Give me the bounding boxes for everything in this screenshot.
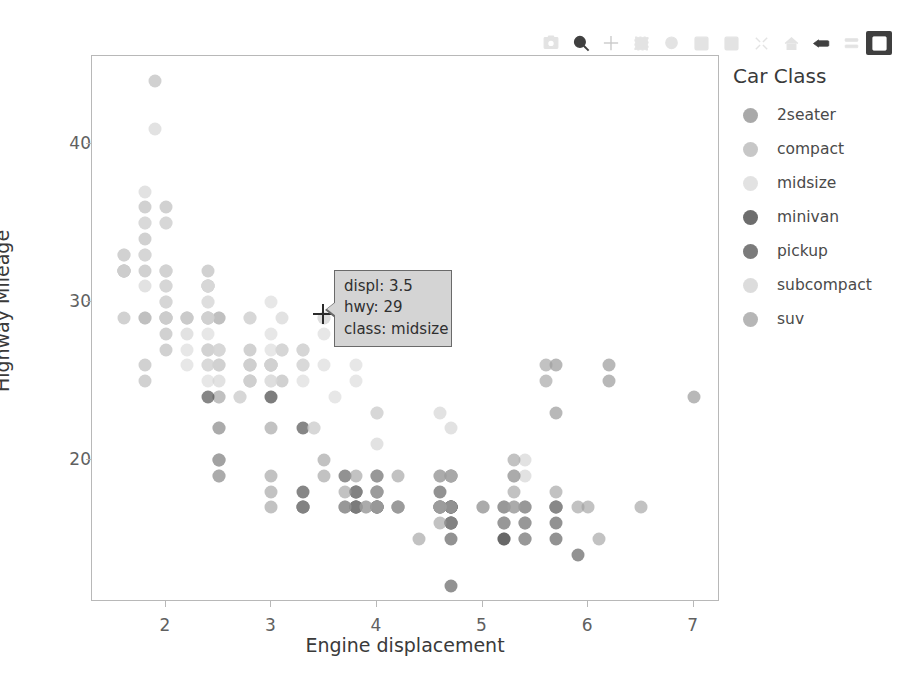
scatter-point[interactable] — [497, 501, 510, 514]
scatter-point[interactable] — [202, 390, 215, 403]
scatter-point[interactable] — [202, 311, 215, 324]
scatter-point[interactable] — [138, 280, 151, 293]
scatter-point[interactable] — [244, 343, 257, 356]
scatter-point[interactable] — [159, 264, 172, 277]
scatter-point[interactable] — [138, 264, 151, 277]
scatter-point[interactable] — [265, 485, 278, 498]
autoscale-icon[interactable] — [746, 29, 776, 57]
scatter-point[interactable] — [159, 280, 172, 293]
scatter-point[interactable] — [349, 469, 362, 482]
scatter-point[interactable] — [508, 453, 521, 466]
scatter-point[interactable] — [117, 311, 130, 324]
scatter-point[interactable] — [202, 296, 215, 309]
lasso-select-icon[interactable] — [656, 29, 686, 57]
scatter-point[interactable] — [370, 485, 383, 498]
scatter-point[interactable] — [571, 548, 584, 561]
scatter-point[interactable] — [202, 280, 215, 293]
scatter-point[interactable] — [138, 233, 151, 246]
scatter-point[interactable] — [265, 375, 278, 388]
scatter-point[interactable] — [265, 359, 278, 372]
scatter-point[interactable] — [149, 122, 162, 135]
scatter-point[interactable] — [297, 359, 310, 372]
scatter-point[interactable] — [307, 422, 320, 435]
box-select-icon[interactable] — [626, 29, 656, 57]
zoom-magnifier-icon[interactable] — [566, 29, 596, 57]
scatter-point[interactable] — [138, 201, 151, 214]
scatter-point[interactable] — [212, 375, 225, 388]
scatter-point[interactable] — [497, 517, 510, 530]
scatter-point[interactable] — [370, 469, 383, 482]
scatter-point[interactable] — [297, 375, 310, 388]
scatter-point[interactable] — [603, 375, 616, 388]
legend-item-subcompact[interactable]: subcompact — [733, 268, 908, 302]
legend-item-midsize[interactable]: midsize — [733, 166, 908, 200]
legend[interactable]: Car Class 2seatercompactmidsizeminivanpi… — [733, 64, 908, 336]
scatter-point[interactable] — [571, 501, 584, 514]
scatter-point[interactable] — [318, 359, 331, 372]
scatter-point[interactable] — [539, 375, 552, 388]
scatter-point[interactable] — [180, 311, 193, 324]
scatter-point[interactable] — [370, 438, 383, 451]
legend-item-2seater[interactable]: 2seater — [733, 98, 908, 132]
zoom-in-plus-icon[interactable] — [686, 29, 716, 57]
scatter-point[interactable] — [138, 248, 151, 261]
scatter-point[interactable] — [159, 343, 172, 356]
zoom-out-minus-icon[interactable] — [716, 29, 746, 57]
scatter-point[interactable] — [159, 217, 172, 230]
scatter-point[interactable] — [265, 422, 278, 435]
scatter-point[interactable] — [212, 422, 225, 435]
legend-item-suv[interactable]: suv — [733, 302, 908, 336]
scatter-point[interactable] — [265, 501, 278, 514]
scatter-point[interactable] — [244, 311, 257, 324]
scatter-point[interactable] — [370, 406, 383, 419]
scatter-point[interactable] — [138, 217, 151, 230]
hover-compare-data-icon[interactable] — [836, 29, 866, 57]
plotly-modebar[interactable] — [487, 28, 892, 58]
legend-item-pickup[interactable]: pickup — [733, 234, 908, 268]
scatter-point[interactable] — [265, 469, 278, 482]
scatter-point[interactable] — [518, 532, 531, 545]
scatter-point[interactable] — [497, 532, 510, 545]
scatter-point[interactable] — [138, 359, 151, 372]
scatter-point[interactable] — [349, 485, 362, 498]
scatter-point[interactable] — [687, 390, 700, 403]
legend-items[interactable]: 2seatercompactmidsizeminivanpickupsubcom… — [733, 98, 908, 336]
scatter-point[interactable] — [212, 469, 225, 482]
scatter-point[interactable] — [202, 343, 215, 356]
scatter-point[interactable] — [592, 532, 605, 545]
scatter-point[interactable] — [518, 501, 531, 514]
scatter-point[interactable] — [159, 201, 172, 214]
scatter-point[interactable] — [138, 375, 151, 388]
scatter-point[interactable] — [202, 264, 215, 277]
hover-closest-data-icon[interactable] — [866, 31, 892, 55]
camera-icon[interactable] — [536, 29, 566, 57]
scatter-point[interactable] — [297, 501, 310, 514]
scatter-point[interactable] — [508, 485, 521, 498]
pan-crosshair-icon[interactable] — [596, 29, 626, 57]
scatter-point[interactable] — [265, 296, 278, 309]
scatter-point[interactable] — [550, 517, 563, 530]
scatter-point[interactable] — [159, 311, 172, 324]
scatter-point[interactable] — [550, 406, 563, 419]
home-reset-axes-icon[interactable] — [776, 29, 806, 57]
scatter-point[interactable] — [434, 406, 447, 419]
scatter-point[interactable] — [265, 327, 278, 340]
scatter-point[interactable] — [149, 75, 162, 88]
legend-item-compact[interactable]: compact — [733, 132, 908, 166]
scatter-point[interactable] — [180, 327, 193, 340]
legend-item-minivan[interactable]: minivan — [733, 200, 908, 234]
scatter-point[interactable] — [349, 375, 362, 388]
scatter-point[interactable] — [392, 469, 405, 482]
scatter-point[interactable] — [297, 485, 310, 498]
scatter-point[interactable] — [434, 485, 447, 498]
scatter-point[interactable] — [444, 517, 457, 530]
scatter-point[interactable] — [117, 264, 130, 277]
scatter-point[interactable] — [202, 327, 215, 340]
scatter-point[interactable] — [159, 296, 172, 309]
toggle-spike-lines-icon[interactable] — [806, 29, 836, 57]
scatter-point[interactable] — [233, 390, 246, 403]
scatter-point[interactable] — [117, 248, 130, 261]
scatter-point[interactable] — [476, 501, 489, 514]
scatter-point[interactable] — [318, 327, 331, 340]
scatter-point[interactable] — [212, 453, 225, 466]
